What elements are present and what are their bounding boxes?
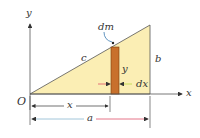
height-label: b <box>155 54 161 64</box>
element-strip <box>111 47 119 94</box>
dx-label: dx <box>136 79 148 89</box>
a-dimension-label: a <box>87 113 93 123</box>
triangle-centroid-diagram: y x O c b dm y dx x a <box>0 0 200 138</box>
y-axis-label: y <box>26 8 32 18</box>
x-axis-label: x <box>186 88 192 98</box>
dm-leader <box>104 32 112 42</box>
origin-label: O <box>17 96 26 107</box>
x-dimension-label: x <box>67 100 73 110</box>
hypotenuse-label: c <box>81 53 87 63</box>
strip-height-label: y <box>122 64 128 74</box>
dm-label: dm <box>98 22 114 32</box>
